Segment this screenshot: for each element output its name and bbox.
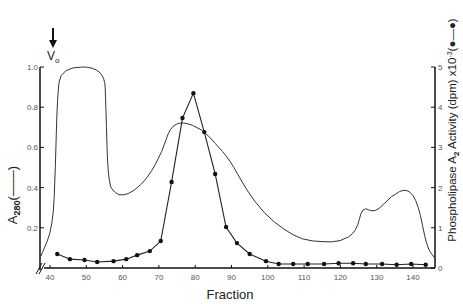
left-tick-label: 1.0: [27, 63, 39, 72]
data-point-marker: [322, 262, 326, 266]
pla2-activity-series: [55, 91, 428, 267]
data-point-marker: [169, 180, 173, 184]
x-tick-label: 70: [154, 273, 163, 282]
data-point-marker: [82, 258, 86, 262]
left-tick-label: 0.6: [27, 143, 39, 152]
x-tick-label: 100: [261, 273, 275, 282]
data-point-marker: [202, 130, 206, 134]
data-point-marker: [148, 249, 152, 253]
x-tick-label: 140: [406, 273, 420, 282]
a280-series: [41, 67, 435, 258]
data-point-marker: [224, 225, 228, 229]
right-axis-title: Phospholipase A2 Activity (dpm) x10-3(●—…: [446, 18, 461, 242]
left-axis-title: A280(——): [5, 166, 22, 224]
data-point-marker: [124, 257, 128, 261]
data-point-marker: [276, 262, 280, 266]
data-point-marker: [135, 253, 139, 257]
data-point-marker: [213, 172, 217, 176]
right-tick-label: 0: [438, 264, 443, 273]
data-point-marker: [336, 261, 340, 265]
arrow-head-icon: [49, 40, 57, 48]
data-point-marker: [409, 262, 413, 266]
data-point-marker: [247, 252, 251, 256]
data-point-marker: [111, 259, 115, 263]
data-point-marker: [264, 259, 268, 263]
data-point-marker: [159, 239, 163, 243]
data-point-marker: [380, 262, 384, 266]
x-axis-title: Fraction: [207, 287, 254, 302]
pla2-line: [57, 93, 425, 265]
x-tick-label: 90: [227, 273, 236, 282]
left-tick-label: 0.4: [27, 184, 39, 193]
x-tick-label: 40: [46, 273, 55, 282]
x-tick-label: 130: [370, 273, 384, 282]
x-tick-label: 110: [298, 273, 311, 282]
data-point-marker: [68, 257, 72, 261]
right-tick-label: 3: [438, 143, 443, 152]
a280-line: [41, 67, 435, 258]
data-point-marker: [351, 261, 355, 265]
data-point-marker: [55, 252, 59, 256]
right-tick-label: 4: [438, 103, 443, 112]
data-point-marker: [95, 260, 99, 264]
data-point-marker: [306, 262, 310, 266]
left-tick-label: 0.8: [27, 103, 39, 112]
right-tick-label: 2: [438, 184, 443, 193]
void-volume-marker: Vo: [47, 28, 60, 65]
right-tick-label: 1: [438, 224, 443, 233]
vo-label: Vo: [47, 49, 60, 65]
data-point-marker: [235, 241, 239, 245]
x-tick-label: 120: [334, 273, 348, 282]
data-point-marker: [424, 263, 428, 267]
data-point-marker: [364, 262, 368, 266]
data-point-marker: [394, 263, 398, 267]
data-point-marker: [291, 262, 295, 266]
right-tick-label: 5: [438, 63, 443, 72]
data-point-marker: [180, 116, 184, 120]
axis-break-icon: [36, 263, 42, 274]
x-tick-label: 50: [82, 273, 91, 282]
x-tick-label: 80: [191, 273, 200, 282]
left-tick-label: 0.2: [27, 224, 39, 233]
data-point-marker: [191, 91, 195, 95]
axis-ticks: 0.20.40.60.81.00123454050607080901001101…: [27, 63, 443, 282]
x-tick-label: 60: [118, 273, 127, 282]
chromatography-chart: 0.20.40.60.81.00123454050607080901001101…: [0, 0, 463, 304]
